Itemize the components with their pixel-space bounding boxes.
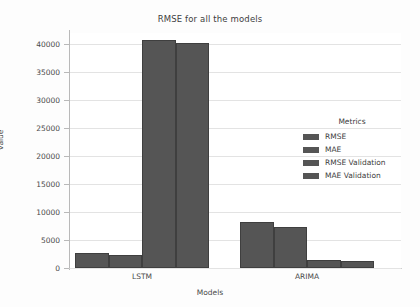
y-tick-mark [64,212,69,213]
legend-item-label: RMSE Validation [325,158,386,167]
legend-item[interactable]: RMSE Validation [303,156,407,169]
legend-entries: RMSEMAERMSE ValidationMAE Validation [303,130,407,182]
bar [176,43,210,268]
x-tick-label: ARIMA [295,272,319,281]
y-tick-label: 30000 [36,96,60,105]
bar [341,261,375,268]
legend-title: Metrics [309,117,395,126]
y-tick-mark [64,128,69,129]
x-axis-label: Models [0,288,420,297]
y-tick-label: 15000 [36,180,60,189]
legend-item-label: MAE [325,145,341,154]
legend-swatch-icon [303,147,319,153]
y-tick-label: 5000 [41,236,60,245]
bar [274,227,308,268]
bar [109,255,143,268]
y-axis-label: value [0,130,5,151]
bar [142,40,176,268]
gridline [70,72,401,73]
y-tick-label: 35000 [36,68,60,77]
y-tick-label: 10000 [36,208,60,217]
legend-item-label: RMSE [325,132,346,141]
y-tick-label: 25000 [36,124,60,133]
y-tick-label: 40000 [36,40,60,49]
legend-item[interactable]: MAE Validation [303,169,407,182]
gridline [70,100,401,101]
y-tick-mark [64,240,69,241]
legend-item-label: MAE Validation [325,171,381,180]
gridline [70,44,401,45]
legend-item[interactable]: RMSE [303,130,407,143]
gridline [70,212,401,213]
x-tick-label: LSTM [132,272,152,281]
legend-swatch-icon [303,134,319,140]
gridline [70,268,401,269]
bar [75,253,109,268]
y-tick-label: 20000 [36,152,60,161]
y-tick-label: 0 [55,264,60,273]
y-tick-mark [64,184,69,185]
bar [307,260,341,268]
chart-title: RMSE for all the models [0,14,420,24]
gridline [70,184,401,185]
legend-swatch-icon [303,160,319,166]
y-tick-mark [64,44,69,45]
legend-swatch-icon [303,173,319,179]
legend: Metrics RMSEMAERMSE ValidationMAE Valida… [303,117,407,182]
y-tick-mark [64,72,69,73]
y-tick-mark [64,100,69,101]
y-tick-mark [64,156,69,157]
y-tick-mark [64,268,69,269]
legend-item[interactable]: MAE [303,143,407,156]
gridline [70,240,401,241]
bar [240,222,274,268]
chart-figure: RMSE for all the models value Models 050… [0,0,420,307]
